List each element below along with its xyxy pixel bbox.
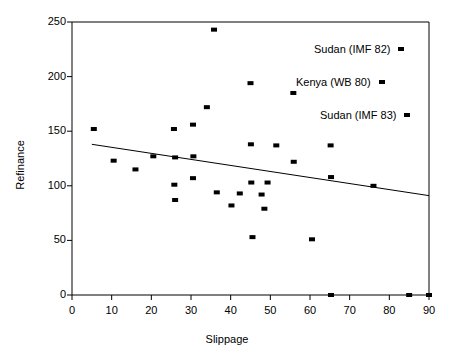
data-point-marker	[261, 207, 267, 211]
x-tick-label: 20	[131, 305, 171, 316]
annotation-kenya-wb-80: Kenya (WB 80)	[296, 76, 385, 88]
y-tick-label: 250	[26, 16, 66, 27]
data-point-marker	[248, 142, 254, 146]
data-point-marker	[171, 183, 177, 187]
annotation-label: Sudan (IMF 82)	[314, 44, 390, 55]
x-tick-label: 10	[92, 305, 132, 316]
x-axis-title: Slippage	[0, 334, 454, 345]
data-point-marker	[248, 181, 254, 185]
data-point-marker	[328, 175, 334, 179]
x-axis-ticks	[72, 295, 429, 300]
data-point-marker	[328, 293, 334, 297]
y-tick-label: 150	[26, 125, 66, 136]
data-point-marker	[150, 154, 156, 158]
x-tick-label: 90	[409, 305, 449, 316]
data-point-marker	[309, 237, 315, 241]
annotation-sudan-imf-82: Sudan (IMF 82)	[314, 43, 404, 55]
data-point-marker	[211, 28, 217, 32]
y-axis-title-text: Refinance	[15, 140, 26, 190]
x-tick-label: 60	[290, 305, 330, 316]
annotation-marker-icon	[379, 80, 385, 84]
data-point-marker	[172, 155, 178, 159]
x-tick-label: 50	[250, 305, 290, 316]
x-tick-label: 30	[171, 305, 211, 316]
annotation-marker-icon	[404, 113, 410, 117]
data-point-marker	[190, 176, 196, 180]
y-tick-label: 50	[26, 234, 66, 245]
data-point-marker	[237, 191, 243, 195]
x-tick-label: 80	[369, 305, 409, 316]
annotation-marker-icon	[398, 47, 404, 51]
data-point-marker	[290, 91, 296, 95]
x-tick-label: 40	[211, 305, 251, 316]
data-point-marker	[204, 105, 210, 109]
data-point-marker	[132, 167, 138, 171]
data-point-marker	[249, 235, 255, 239]
data-point-marker	[259, 193, 265, 197]
data-point-marker	[111, 159, 117, 163]
y-tick-label: 200	[26, 71, 66, 82]
data-point-marker	[265, 181, 271, 185]
x-tick-label: 0	[52, 305, 92, 316]
trend-line	[92, 144, 429, 195]
annotation-label: Kenya (WB 80)	[296, 77, 371, 88]
data-point-marker	[426, 293, 432, 297]
data-point-marker	[172, 198, 178, 202]
x-tick-label: 70	[330, 305, 370, 316]
scatter-chart: 050100150200250 0102030405060708090 Refi…	[0, 0, 454, 358]
data-point-marker	[91, 127, 97, 131]
trend-line-segment	[92, 144, 429, 195]
data-point-marker	[370, 184, 376, 188]
axis-lines	[72, 22, 429, 295]
y-axis-ticks	[67, 22, 72, 295]
y-axis-title: Refinance	[13, 130, 27, 200]
data-point-marker	[190, 154, 196, 158]
data-point-marker	[171, 127, 177, 131]
data-points	[91, 28, 432, 297]
y-tick-label: 100	[26, 180, 66, 191]
data-point-marker	[328, 143, 334, 147]
y-tick-label: 0	[26, 289, 66, 300]
data-point-marker	[190, 123, 196, 127]
annotation-label: Sudan (IMF 83)	[320, 110, 396, 121]
data-point-marker	[248, 81, 254, 85]
data-point-marker	[214, 190, 220, 194]
annotation-sudan-imf-83: Sudan (IMF 83)	[320, 109, 410, 121]
data-point-marker	[273, 143, 279, 147]
data-point-marker	[291, 160, 297, 164]
data-point-marker	[406, 293, 412, 297]
data-point-marker	[228, 203, 234, 207]
